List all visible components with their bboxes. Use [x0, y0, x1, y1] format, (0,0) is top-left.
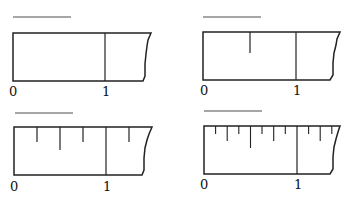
ruler-outline — [204, 126, 340, 174]
label-zero: 0 — [9, 84, 17, 99]
label-zero: 0 — [200, 177, 208, 192]
ruler-diagram: 0 1 0 1 0 1 0 1 — [0, 0, 345, 202]
label-one: 1 — [294, 177, 302, 192]
label-one: 1 — [102, 84, 110, 99]
label-zero: 0 — [10, 179, 18, 194]
ruler-eighths: 0 1 — [200, 111, 340, 192]
ruler-outline — [13, 33, 151, 81]
label-zero: 0 — [200, 83, 208, 98]
label-one: 1 — [293, 83, 301, 98]
ruler-whole: 0 1 — [9, 17, 151, 99]
ruler-halves: 0 1 — [200, 17, 340, 98]
ruler-quarters: 0 1 — [10, 113, 152, 194]
label-one: 1 — [103, 179, 111, 194]
ruler-outline — [203, 32, 340, 80]
